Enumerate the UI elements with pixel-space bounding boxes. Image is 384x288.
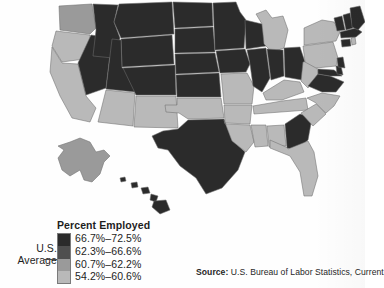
- us-average-label-line1: U.S.: [2, 242, 57, 254]
- state-HI-1: [120, 177, 126, 182]
- legend-swatch-1: [58, 246, 70, 258]
- state-AZ: [98, 90, 135, 126]
- legend-swatch-0: [58, 234, 70, 246]
- state-MO: [221, 73, 254, 104]
- us-average-label: U.S. Average: [2, 242, 57, 266]
- state-SD: [175, 27, 215, 53]
- legend-label-3: 54.2%–60.6%: [75, 270, 141, 283]
- state-FL: [270, 140, 318, 196]
- state-HI-2: [131, 182, 138, 188]
- legend-swatch-2: [58, 259, 70, 271]
- legend-swatch-column: [57, 233, 71, 284]
- states-layer: [50, 2, 365, 214]
- state-KY: [263, 80, 304, 100]
- state-AK: [58, 138, 110, 182]
- state-AR: [224, 105, 252, 124]
- state-MN: [213, 2, 246, 50]
- state-NY: [304, 20, 340, 45]
- state-RI: [351, 37, 356, 45]
- state-NJ: [337, 57, 345, 68]
- choropleth-map: [0, 0, 365, 222]
- legend-label-column: 66.7%–72.5% 62.3%–66.6% 60.7%–62.2% 54.2…: [75, 232, 141, 283]
- legend-title: Percent Employed: [57, 219, 150, 231]
- state-WA: [59, 4, 96, 34]
- state-MT: [114, 2, 174, 38]
- state-MS: [251, 125, 268, 147]
- state-ME: [350, 6, 365, 30]
- us-average-tick-line: [44, 259, 58, 260]
- state-IA: [216, 49, 250, 73]
- state-WY: [121, 35, 174, 67]
- legend-label-0: 66.7%–72.5%: [75, 232, 141, 245]
- source-text: U.S. Bureau of Labor Statistics, Current: [231, 267, 384, 277]
- state-TN: [253, 98, 308, 114]
- state-HI-5: [152, 200, 170, 214]
- map-legend: Percent Employed U.S. Average 66.7%–72.5…: [0, 215, 365, 288]
- state-ND: [173, 2, 213, 28]
- state-CT: [341, 39, 351, 47]
- source-citation: Source: U.S. Bureau of Labor Statistics,…: [196, 267, 384, 277]
- us-average-label-line2: Average: [2, 254, 57, 266]
- legend-label-1: 62.3%–66.6%: [75, 245, 141, 258]
- legend-label-2: 60.7%–62.2%: [75, 258, 141, 271]
- state-HI-3: [141, 187, 150, 194]
- source-prefix: Source:: [196, 267, 228, 277]
- state-KS: [176, 73, 221, 97]
- us-map-svg: [0, 0, 365, 222]
- state-NE: [175, 53, 219, 74]
- legend-swatch-3: [58, 271, 70, 283]
